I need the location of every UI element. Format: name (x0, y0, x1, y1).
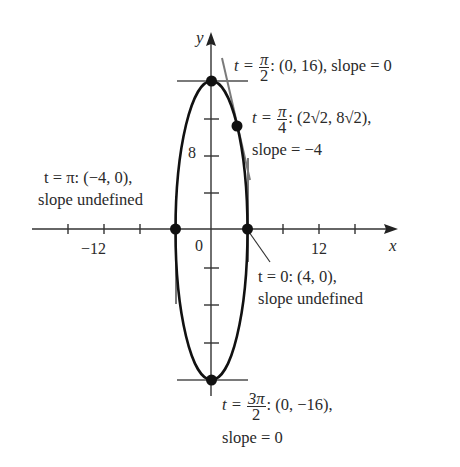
annotation-t-0-slope: slope undefined (258, 289, 363, 308)
y-tick-label-8: 8 (188, 144, 196, 162)
annotation-t-pi-slope: slope undefined (38, 190, 143, 209)
annotation-t-pi: t = π: (−4, 0), (44, 168, 132, 187)
annotation-t-0: t = 0: (4, 0), (258, 267, 337, 286)
point-t-pi-over-4 (232, 121, 243, 132)
y-axis-arrow-icon (206, 32, 216, 46)
x-axis-label: x (389, 236, 397, 256)
annotation-t-3pi-over-2-slope: slope = 0 (222, 428, 283, 447)
point-t-3pi-over-2 (206, 375, 217, 386)
x-axis-arrow-icon (384, 224, 398, 234)
point-t-pi (170, 224, 181, 235)
origin-label: 0 (195, 237, 203, 255)
fraction: 3π2 (247, 391, 266, 422)
annotation-t-pi-over-4: t = π4: (2√2, 8√2), (252, 104, 371, 135)
point-t-pi-over-2 (206, 76, 217, 87)
annotation-t-3pi-over-2: t = 3π2: (0, −16), (222, 391, 333, 422)
axes (32, 38, 392, 396)
annotation-t-pi-over-4-slope: slope = −4 (252, 140, 322, 159)
fraction: π4 (277, 104, 287, 135)
point-t-0 (242, 224, 253, 235)
annotation-t-pi-over-2: t = π2: (0, 16), slope = 0 (234, 52, 392, 83)
x-tick-label-neg12: −12 (81, 240, 106, 258)
parametric-ellipse-figure: y x 8 0 −12 12 t = π2: (0, 16), slope = … (0, 0, 460, 467)
x-tick-label-12: 12 (311, 240, 327, 258)
leader-line-t0 (249, 232, 270, 262)
fraction: π2 (259, 52, 269, 83)
y-axis-label: y (196, 28, 204, 48)
